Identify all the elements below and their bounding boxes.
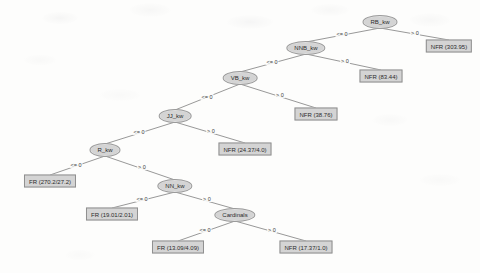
tree-edge-label: <= 0 <box>132 129 145 135</box>
tree-node-internal[interactable]: RB_kw <box>362 15 397 29</box>
decision-tree-canvas: RB_kwNNB_kwNFR (303.95)VB_kwNFR (83.44)J… <box>0 0 480 273</box>
tree-edge-label: > 0 <box>206 128 216 134</box>
tree-edge-label: <= 0 <box>265 59 278 65</box>
tree-node-internal[interactable]: Cardinals <box>214 208 255 222</box>
tree-node-leaf[interactable]: FR (270.2/27.2) <box>24 175 76 188</box>
tree-edge-label: <= 0 <box>200 94 213 100</box>
tree-node-leaf[interactable]: FR (19.01/2.01) <box>86 208 138 221</box>
tree-node-internal[interactable]: R_kw <box>89 143 120 157</box>
tree-edge-label: > 0 <box>340 58 350 64</box>
tree-edge-label: <= 0 <box>69 162 82 168</box>
tree-node-internal[interactable]: VB_kw <box>223 71 258 85</box>
tree-edge-label: <= 0 <box>335 31 348 37</box>
tree-node-leaf[interactable]: FR (13.09/4.09) <box>152 241 204 254</box>
tree-node-leaf[interactable]: NFR (83.44) <box>359 70 402 83</box>
tree-edge-label: <= 0 <box>198 227 211 233</box>
tree-edge-label: > 0 <box>267 227 277 233</box>
tree-edge-label: > 0 <box>410 30 420 36</box>
tree-edge-label: > 0 <box>202 196 212 202</box>
tree-node-internal[interactable]: NN_kw <box>157 179 192 193</box>
tree-edge-label: <= 0 <box>135 196 148 202</box>
tree-edge-layer <box>0 0 480 273</box>
tree-edge-label: > 0 <box>137 164 147 170</box>
tree-node-internal[interactable]: NNB_kw <box>286 41 325 55</box>
tree-node-leaf[interactable]: NFR (17.37/1.0) <box>279 241 332 254</box>
tree-edge-label: > 0 <box>275 92 285 98</box>
tree-node-internal[interactable]: JJ_kw <box>159 109 192 123</box>
tree-node-leaf[interactable]: NFR (24.37/4.0) <box>218 143 271 156</box>
tree-node-leaf[interactable]: NFR (38.76) <box>294 108 337 121</box>
tree-node-leaf[interactable]: NFR (303.95) <box>426 40 472 53</box>
